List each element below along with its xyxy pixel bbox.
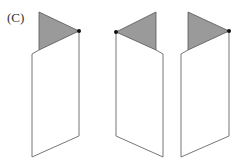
hinge-dot <box>114 30 118 34</box>
flag-triangle <box>39 12 79 50</box>
flag-triangle <box>116 12 156 50</box>
hinge-dot <box>227 29 231 33</box>
flag-triangle <box>188 12 229 50</box>
figure-1 <box>32 12 81 157</box>
figure-3 <box>181 12 231 157</box>
figure-2 <box>114 12 163 157</box>
panel-outline <box>116 32 163 157</box>
folded-panels-diagram <box>0 0 239 165</box>
hinge-dot <box>77 29 81 33</box>
